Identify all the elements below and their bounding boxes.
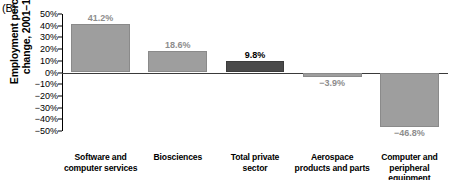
- bar[interactable]: [303, 73, 362, 78]
- bar-value-label: 9.8%: [216, 50, 293, 60]
- x-axis-label-line: products and parts: [295, 163, 370, 173]
- x-axis-label: Total privatesector: [216, 152, 293, 173]
- bar-value-label: −46.8%: [371, 128, 448, 138]
- y-axis-title: Employment percent change, 2001–16: [3, 0, 37, 100]
- x-axis-label-line: Software and: [75, 152, 127, 162]
- chart-figure: (B) Employment percent change, 2001–16 5…: [0, 0, 457, 180]
- x-axis-label-line: Aerospace: [311, 152, 354, 162]
- bar[interactable]: [226, 61, 285, 72]
- y-axis-tick-label: 0%: [45, 68, 58, 78]
- bar[interactable]: [380, 73, 439, 128]
- x-axis-label: Biosciences: [139, 152, 216, 163]
- bar-group: 18.6%: [139, 14, 216, 131]
- bar-group: −46.8%: [371, 14, 448, 131]
- bar[interactable]: [148, 51, 207, 73]
- y-axis-tick-label: 30%: [40, 32, 58, 42]
- bar-value-label: 18.6%: [139, 40, 216, 50]
- y-axis-tick-label: −40%: [35, 114, 58, 124]
- y-axis-title-text: Employment percent change, 2001–16: [8, 0, 33, 84]
- bar[interactable]: [71, 24, 130, 72]
- bar-value-label: −3.9%: [294, 78, 371, 88]
- bar-group: 41.2%: [62, 14, 139, 131]
- y-axis-tick-label: 50%: [40, 9, 58, 19]
- x-axis-label: Computer andperipheral equipment: [371, 152, 448, 180]
- y-axis-tick-label: −50%: [35, 126, 58, 136]
- x-axis-label: Aerospaceproducts and parts: [294, 152, 371, 173]
- y-axis-tick-label: 40%: [40, 21, 58, 31]
- x-axis-label-line: computer services: [64, 163, 137, 173]
- y-axis-tick-label: 20%: [40, 44, 58, 54]
- y-axis-tick-label: −30%: [35, 103, 58, 113]
- y-axis-tick-label: −20%: [35, 91, 58, 101]
- x-axis-label-line: Biosciences: [154, 152, 203, 162]
- y-axis-tick-label: 10%: [40, 56, 58, 66]
- x-axis-labels: Software andcomputer servicesBiosciences…: [62, 152, 448, 180]
- bar-group: −3.9%: [294, 14, 371, 131]
- x-axis-label-line: Computer and: [381, 152, 437, 162]
- x-axis-label: Software andcomputer services: [62, 152, 139, 173]
- x-axis-label-line: peripheral equipment: [388, 163, 430, 181]
- bar-group: 9.8%: [216, 14, 293, 131]
- bar-value-label: 41.2%: [62, 13, 139, 23]
- plot-area: 50%40%30%20%10%0%−10%−20%−30%−40%−50%41.…: [62, 14, 448, 131]
- x-axis-label-line: Total private: [231, 152, 280, 162]
- x-axis-label-line: sector: [243, 163, 268, 173]
- y-axis-tick-label: −10%: [35, 79, 58, 89]
